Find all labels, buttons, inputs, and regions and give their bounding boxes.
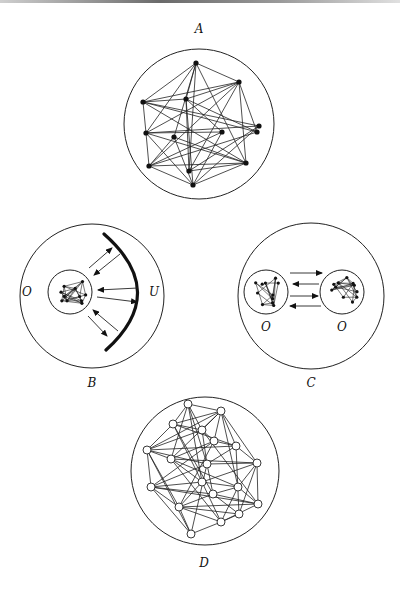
panel-a-label: A	[194, 22, 204, 36]
edge	[189, 63, 196, 171]
edge	[143, 102, 146, 133]
node	[261, 303, 264, 306]
node	[74, 287, 77, 290]
panel-c-organism-left-circle	[244, 270, 288, 314]
node	[80, 299, 83, 302]
node	[355, 296, 358, 299]
panel-b-environment-label: U	[149, 285, 160, 299]
edge	[146, 133, 193, 185]
node	[143, 446, 151, 454]
node	[264, 281, 267, 284]
arrow-out-1	[89, 248, 112, 268]
edge	[221, 411, 236, 446]
node	[81, 280, 84, 283]
node	[219, 129, 224, 134]
panel-d-label: D	[198, 556, 209, 570]
node	[198, 478, 206, 486]
panel-b: O U B	[20, 224, 164, 390]
node	[84, 293, 87, 296]
edge	[151, 487, 213, 494]
node	[186, 168, 191, 173]
edge	[147, 446, 236, 450]
node	[345, 276, 348, 279]
panel-a-nodes	[140, 60, 261, 187]
edge	[64, 286, 75, 288]
node	[210, 437, 218, 445]
node	[232, 442, 240, 450]
panel-b-organism-label: O	[22, 285, 32, 299]
node	[60, 299, 63, 302]
node	[140, 99, 145, 104]
node	[78, 295, 81, 298]
arrow-in-3	[93, 310, 118, 331]
edge	[262, 305, 273, 306]
node	[253, 459, 261, 467]
panel-b-environment-arc	[104, 234, 138, 350]
node	[271, 293, 274, 296]
node	[256, 123, 261, 128]
node	[277, 281, 280, 284]
edge	[188, 404, 221, 411]
node	[243, 160, 248, 165]
panel-c-organism-left-label: O	[261, 320, 271, 334]
node	[217, 407, 225, 415]
panel-d: D	[131, 397, 279, 570]
edge	[193, 163, 246, 185]
panel-c-label: C	[306, 376, 315, 390]
node	[63, 285, 66, 288]
edge	[191, 522, 221, 534]
panel-b-label: B	[87, 376, 97, 390]
edge	[147, 424, 173, 450]
panel-c-organism-right-label: O	[337, 320, 347, 334]
node	[330, 288, 333, 291]
node	[334, 286, 337, 289]
node	[254, 281, 257, 284]
node	[332, 283, 335, 286]
node	[65, 299, 68, 302]
node	[337, 281, 340, 284]
node	[198, 426, 206, 434]
panel-a-boundary-circle	[124, 49, 274, 199]
arrow-in-1	[94, 254, 120, 275]
arrow-in-2	[98, 288, 138, 290]
node	[171, 134, 176, 139]
panel-a: A	[124, 22, 274, 199]
panel-c-organism-right-network	[330, 276, 358, 304]
node	[353, 284, 356, 287]
node	[190, 182, 195, 187]
node	[236, 79, 241, 84]
edge	[257, 463, 258, 504]
arrow-out-2	[97, 297, 137, 302]
node	[217, 518, 225, 526]
node	[146, 163, 151, 168]
node	[235, 510, 243, 518]
edge	[83, 282, 86, 295]
node	[59, 291, 62, 294]
node	[272, 304, 275, 307]
panel-c-organism-left-network	[254, 277, 280, 308]
edge	[214, 411, 221, 441]
edge	[151, 482, 202, 487]
node	[351, 300, 354, 303]
edge	[146, 133, 149, 166]
node	[234, 483, 242, 491]
node	[271, 297, 274, 300]
node	[169, 420, 177, 428]
edge	[143, 82, 239, 102]
panel-a-edges	[143, 63, 259, 185]
edge	[347, 278, 357, 298]
node	[355, 290, 358, 293]
panel-c-exchange-arrows	[290, 273, 322, 306]
node	[254, 129, 259, 134]
edge	[196, 63, 239, 82]
panel-b-organism-network	[59, 280, 87, 305]
node	[147, 483, 155, 491]
node	[342, 296, 345, 299]
node	[167, 455, 175, 463]
node	[209, 490, 217, 498]
edge	[221, 411, 257, 463]
edge	[207, 463, 257, 464]
node	[183, 96, 188, 101]
figure-canvas: A O U B O O C	[0, 0, 400, 589]
node	[193, 60, 198, 65]
